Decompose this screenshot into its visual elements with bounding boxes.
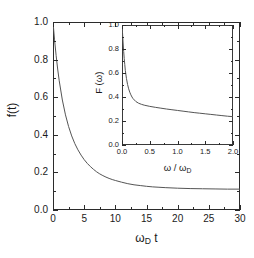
y-tick-major-right <box>229 25 233 26</box>
y-tick-label: 0.0 <box>26 205 48 215</box>
x-tick-minor <box>193 207 194 210</box>
x-tick-label: 1.0 <box>172 148 182 156</box>
y-tick-major <box>122 25 126 26</box>
y-tick-major <box>122 145 126 146</box>
y-tick-minor-right <box>237 41 240 42</box>
y-tick-major-right <box>229 121 233 122</box>
y-tick-label: 0.4 <box>26 130 48 140</box>
y-tick-label: 0.2 <box>26 167 48 177</box>
y-tick-major <box>122 49 126 50</box>
main-y-axis-label: f(t) <box>6 90 18 130</box>
y-tick-major <box>122 97 126 98</box>
x-tick-label: 20 <box>172 214 183 224</box>
x-tick-major <box>233 141 234 145</box>
x-tick-minor <box>69 207 70 210</box>
x-tick-label: 30 <box>234 214 245 224</box>
x-tick-major <box>84 205 85 210</box>
y-tick-major <box>122 73 126 74</box>
y-tick-major <box>53 60 58 61</box>
x-tick-major <box>150 141 151 145</box>
y-tick-major <box>53 135 58 136</box>
y-tick-minor-right <box>231 61 233 62</box>
y-tick-major-right <box>235 210 240 211</box>
x-tick-label: 0.5 <box>145 148 155 156</box>
x-tick-major <box>147 205 148 210</box>
main-x-axis-label-tail: t <box>151 231 158 245</box>
y-tick-label: 0.6 <box>102 69 119 77</box>
x-tick-major-top <box>84 22 85 27</box>
y-tick-label: 0.4 <box>102 93 119 101</box>
main-x-axis-label-base: ω <box>135 231 144 245</box>
y-tick-label: 0.8 <box>26 55 48 65</box>
figure-canvas: 0510152025300.00.20.40.60.81.0 ωD t f(t)… <box>0 0 254 258</box>
y-tick-label: 0.6 <box>26 92 48 102</box>
x-tick-minor <box>191 143 192 145</box>
y-tick-minor <box>53 154 56 155</box>
x-tick-minor <box>219 143 220 145</box>
x-tick-major-top <box>178 25 179 29</box>
y-tick-major <box>53 172 58 173</box>
x-tick-major <box>178 205 179 210</box>
y-tick-major <box>53 210 58 211</box>
x-tick-minor <box>224 207 225 210</box>
y-tick-minor <box>122 61 124 62</box>
y-tick-minor-right <box>231 133 233 134</box>
inset-x-axis-label-base: ω / ω <box>164 162 187 173</box>
y-tick-minor-right <box>237 191 240 192</box>
x-tick-label: 1.5 <box>200 148 210 156</box>
inset-plot <box>122 25 233 145</box>
y-tick-minor-right <box>231 85 233 86</box>
inset-x-axis-label-subscript: D <box>186 167 191 174</box>
x-tick-minor <box>100 207 101 210</box>
y-tick-major-right <box>229 49 233 50</box>
inset-plot-curve-layer <box>122 25 233 145</box>
x-tick-major-top <box>233 25 234 29</box>
x-tick-major <box>240 205 241 210</box>
y-tick-minor-right <box>237 116 240 117</box>
y-tick-major-right <box>235 97 240 98</box>
x-tick-minor-top <box>219 25 220 27</box>
x-tick-label: 5 <box>81 214 87 224</box>
y-tick-major-right <box>235 135 240 136</box>
y-tick-minor <box>122 133 124 134</box>
y-tick-major-right <box>229 73 233 74</box>
y-tick-major <box>122 121 126 122</box>
y-tick-label: 1.0 <box>26 17 48 27</box>
x-tick-major-top <box>150 25 151 29</box>
y-tick-major-right <box>229 145 233 146</box>
x-tick-label: 25 <box>203 214 214 224</box>
inset-x-axis-label: ω / ωD <box>122 163 233 175</box>
x-tick-minor-top <box>100 22 101 25</box>
x-tick-minor-top <box>164 25 165 27</box>
x-tick-minor <box>162 207 163 210</box>
y-tick-major <box>53 22 58 23</box>
x-tick-major-top <box>240 22 241 27</box>
main-x-axis-label: ωD t <box>53 232 240 246</box>
y-tick-minor <box>53 191 56 192</box>
x-tick-label: 10 <box>110 214 121 224</box>
x-tick-minor-top <box>191 25 192 27</box>
y-tick-minor-right <box>237 78 240 79</box>
x-tick-minor-top <box>69 22 70 25</box>
y-tick-label: 1.0 <box>102 21 119 29</box>
y-tick-minor-right <box>231 109 233 110</box>
x-tick-minor <box>136 143 137 145</box>
x-tick-minor <box>131 207 132 210</box>
y-tick-major-right <box>235 22 240 23</box>
inset-y-axis-label: F (ω) <box>94 63 104 103</box>
y-tick-label: 0.0 <box>102 141 119 149</box>
x-tick-minor-top <box>136 25 137 27</box>
y-tick-minor <box>122 37 124 38</box>
y-tick-minor <box>122 85 124 86</box>
y-tick-minor <box>53 78 56 79</box>
x-tick-major <box>209 205 210 210</box>
y-tick-label: 0.8 <box>102 45 119 53</box>
y-tick-minor <box>53 116 56 117</box>
y-tick-major-right <box>235 60 240 61</box>
x-tick-label: 2.0 <box>228 148 238 156</box>
y-tick-minor <box>53 41 56 42</box>
y-tick-major <box>53 97 58 98</box>
inset-curve <box>122 25 233 117</box>
y-tick-major-right <box>229 97 233 98</box>
y-tick-major-right <box>235 172 240 173</box>
